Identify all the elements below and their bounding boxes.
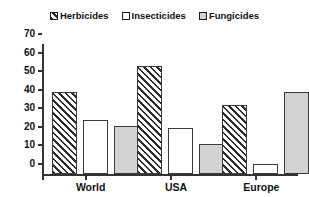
bar-group-world — [52, 44, 139, 174]
y-tick: 10 — [17, 140, 42, 150]
legend-label-herbicides: Herbicides — [60, 11, 109, 21]
x-tick-origin — [42, 176, 44, 180]
x-tick — [255, 176, 257, 180]
y-tick-mark — [38, 144, 42, 146]
y-tick-mark — [38, 89, 42, 91]
x-axis-label-usa: USA — [127, 182, 225, 193]
y-axis — [42, 44, 44, 176]
y-tick: 70 — [17, 29, 42, 39]
bar-fungicides-world — [114, 126, 139, 174]
y-tick: 20 — [17, 122, 42, 132]
legend-item-insecticides: Insecticides — [122, 11, 186, 21]
bar-herbicides-usa — [137, 66, 162, 174]
x-tick — [85, 176, 87, 180]
bar-chart: Herbicides Insecticides Fungicides 01020… — [0, 0, 309, 197]
bar-group-europe — [222, 44, 309, 174]
y-tick-mark — [38, 33, 42, 35]
chart-legend: Herbicides Insecticides Fungicides — [0, 11, 309, 21]
y-tick: 60 — [17, 48, 42, 58]
legend-label-insecticides: Insecticides — [132, 11, 186, 21]
bar-herbicides-europe — [222, 105, 247, 174]
y-tick-label: 70 — [17, 29, 35, 39]
y-tick-label: 60 — [17, 48, 35, 58]
x-axis-label-europe: Europe — [212, 182, 309, 193]
y-tick-mark — [38, 70, 42, 72]
bar-fungicides-europe — [284, 92, 309, 174]
bar-insecticides-world — [83, 120, 108, 174]
y-tick-mark — [38, 163, 42, 165]
y-tick-mark — [38, 126, 42, 128]
y-tick-label: 50 — [17, 66, 35, 76]
y-tick: 30 — [17, 103, 42, 113]
x-tick — [170, 176, 172, 180]
bar-fungicides-usa — [199, 144, 224, 174]
y-tick: 50 — [17, 66, 42, 76]
y-tick-label: 20 — [17, 122, 35, 132]
legend-swatch-insecticides-icon — [122, 12, 130, 20]
y-tick-label: 40 — [17, 85, 35, 95]
legend-swatch-fungicides-icon — [199, 12, 207, 20]
legend-item-herbicides: Herbicides — [50, 11, 109, 21]
y-tick: 40 — [17, 85, 42, 95]
y-tick-mark — [38, 52, 42, 54]
bar-insecticides-usa — [168, 128, 193, 174]
y-tick-label: 30 — [17, 103, 35, 113]
bar-herbicides-world — [52, 92, 77, 174]
legend-label-fungicides: Fungicides — [209, 11, 259, 21]
y-tick-label: 10 — [17, 140, 35, 150]
y-tick: 0 — [17, 159, 42, 169]
legend-swatch-herbicides-icon — [50, 12, 58, 20]
legend-item-fungicides: Fungicides — [199, 11, 259, 21]
plot-area: 010203040506070 WorldUSAEurope — [42, 44, 298, 176]
y-tick-mark — [38, 107, 42, 109]
bar-group-usa — [137, 44, 224, 174]
y-tick-label: 0 — [17, 159, 35, 169]
bar-insecticides-europe — [253, 164, 278, 174]
x-axis-label-world: World — [42, 182, 140, 193]
